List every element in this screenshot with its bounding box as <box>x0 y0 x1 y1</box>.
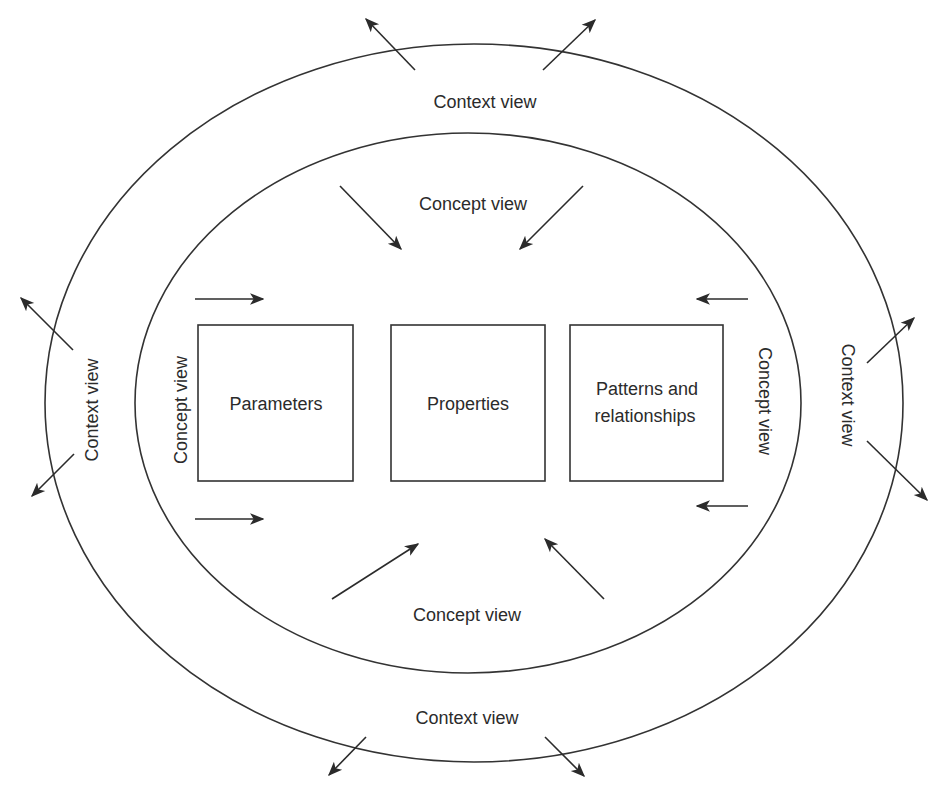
concept-view-top-label: Concept view <box>419 194 528 214</box>
arrow-up-left-icon <box>366 19 415 70</box>
arrow-up-right-icon <box>543 20 595 70</box>
context-view-bottom-label: Context view <box>415 708 519 728</box>
arrow-inward-bottom-right-icon <box>545 539 604 599</box>
arrow-left-down-icon <box>32 454 74 496</box>
context-concept-diagram: Parameters Properties Patterns and relat… <box>0 0 947 800</box>
arrow-right-down-icon <box>867 441 927 500</box>
box-patterns-relationships: Patterns and relationships <box>570 325 723 481</box>
patterns-label-line2: relationships <box>594 406 695 426</box>
patterns-relationships-box <box>570 325 723 481</box>
box-parameters: Parameters <box>198 325 353 481</box>
context-view-right-label: Context view <box>838 343 858 447</box>
arrow-inward-top-right-icon <box>520 186 583 249</box>
arrow-inward-bottom-left-icon <box>332 544 418 599</box>
parameters-label: Parameters <box>229 394 322 414</box>
arrow-left-up-icon <box>21 298 73 350</box>
concept-view-bottom-label: Concept view <box>413 605 522 625</box>
context-view-left-label: Context view <box>82 357 102 461</box>
concept-view-right-label: Concept view <box>755 347 775 456</box>
concept-view-left-label: Concept view <box>171 355 191 464</box>
properties-label: Properties <box>427 394 509 414</box>
box-properties: Properties <box>391 325 545 481</box>
arrow-right-up-icon <box>867 318 914 363</box>
context-view-top-label: Context view <box>433 92 537 112</box>
arrow-inward-top-left-icon <box>340 186 401 249</box>
patterns-label-line1: Patterns and <box>596 379 698 399</box>
